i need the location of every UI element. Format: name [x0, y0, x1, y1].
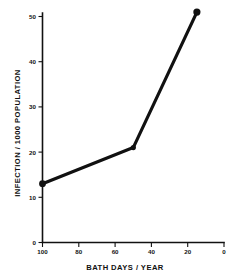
x-tick-label: 20 [184, 248, 191, 255]
chart-background [0, 0, 239, 277]
chart-figure: 50 40 30 20 10 0 100 80 60 40 20 0 BATH … [0, 0, 239, 277]
data-point-marker [131, 145, 136, 150]
y-axis-title: INFECTION / 1000 POPULATION [13, 69, 22, 197]
y-tick-label: 20 [29, 149, 36, 156]
y-tick-label: 50 [29, 13, 36, 20]
y-tick-label: 0 [33, 239, 37, 246]
x-axis-title: BATH DAYS / YEAR [86, 263, 164, 272]
x-tick-label: 100 [37, 248, 48, 255]
x-tick-label: 60 [112, 248, 119, 255]
y-tick-label: 30 [29, 103, 36, 110]
x-tick-label: 80 [75, 248, 82, 255]
infection-vs-bath-days-line-chart: 50 40 30 20 10 0 100 80 60 40 20 0 BATH … [0, 0, 239, 277]
x-tick-label: 40 [148, 248, 155, 255]
y-tick-label: 10 [29, 194, 36, 201]
x-tick-label: 0 [222, 248, 226, 255]
data-point-marker [39, 180, 46, 187]
y-tick-label: 40 [29, 58, 36, 65]
data-point-marker [193, 9, 200, 16]
